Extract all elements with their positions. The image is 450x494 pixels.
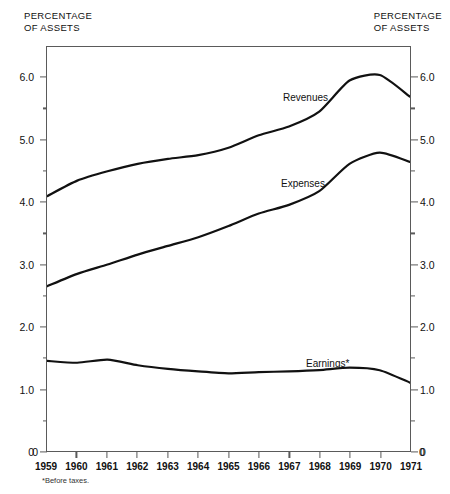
- x-tick-1967: [289, 452, 290, 458]
- y-minor-tick-right-3.5: [411, 233, 415, 234]
- y-axis-label-left-6.0: 6.0: [19, 71, 34, 83]
- series-label-revenues: Revenues: [283, 92, 328, 103]
- plot-area: [46, 46, 411, 452]
- x-axis-label-1970: 1970: [369, 461, 391, 472]
- y-minor-tick-right-4.5: [411, 170, 415, 171]
- x-tick-1960: [76, 452, 77, 458]
- x-tick-1970: [380, 452, 381, 458]
- series-line-earnings: [47, 360, 410, 383]
- x-axis-label-1966: 1966: [248, 461, 270, 472]
- y-tick-right-3.0: [411, 264, 418, 265]
- y-tick-right-4.0: [411, 202, 418, 203]
- y-minor-tick-right-1.5: [411, 358, 415, 359]
- y-minor-tick-right-0.5: [411, 420, 415, 421]
- x-tick-1961: [106, 452, 107, 458]
- series-line-revenues: [47, 74, 410, 196]
- line-chart-svg: [47, 47, 410, 451]
- x-axis-label-1963: 1963: [157, 461, 179, 472]
- y-axis-label-right-6.0: 6.0: [420, 71, 435, 83]
- series-label-expenses: Expenses: [281, 178, 325, 189]
- y-minor-tick-right-2.5: [411, 295, 415, 296]
- x-axis-label-1968: 1968: [309, 461, 331, 472]
- y-axis-label-right-3.0: 3.0: [420, 259, 435, 271]
- right-axis-title: PERCENTAGE OF ASSETS: [374, 10, 442, 33]
- footnote: *Before taxes.: [42, 476, 89, 485]
- x-tick-1963: [167, 452, 168, 458]
- y-tick-right-0: [411, 451, 418, 452]
- y-axis-label-left-1.0: 1.0: [19, 384, 34, 396]
- x-axis-label-1959: 1959: [35, 461, 57, 472]
- x-axis-label-1962: 1962: [126, 461, 148, 472]
- y-axis-zero-right: 0: [419, 446, 450, 458]
- y-axis-zero-left: 0: [0, 446, 38, 458]
- y-axis-label-right-4.0: 4.0: [420, 196, 435, 208]
- x-tick-1968: [319, 452, 320, 458]
- y-axis-label-left-3.0: 3.0: [19, 259, 34, 271]
- y-axis-label-left-2.0: 2.0: [19, 321, 34, 333]
- x-axis-label-1960: 1960: [65, 461, 87, 472]
- x-axis-label-1969: 1969: [339, 461, 361, 472]
- y-minor-tick-right-5.5: [411, 108, 415, 109]
- y-tick-right-6.0: [411, 77, 418, 78]
- y-axis-label-right-2.0: 2.0: [420, 321, 435, 333]
- y-tick-right-1.0: [411, 389, 418, 390]
- y-axis-label-right-5.0: 5.0: [420, 134, 435, 146]
- x-axis-label-1971: 1971: [400, 461, 422, 472]
- y-axis-label-left-4.0: 4.0: [19, 196, 34, 208]
- x-axis-label-1965: 1965: [217, 461, 239, 472]
- y-axis-label-right-1.0: 1.0: [420, 384, 435, 396]
- left-axis-title: PERCENTAGE OF ASSETS: [24, 10, 92, 33]
- x-tick-1962: [137, 452, 138, 458]
- x-tick-1964: [197, 452, 198, 458]
- x-tick-1965: [228, 452, 229, 458]
- x-tick-1969: [350, 452, 351, 458]
- x-axis-label-1961: 1961: [96, 461, 118, 472]
- x-axis-label-1967: 1967: [278, 461, 300, 472]
- y-axis-label-left-5.0: 5.0: [19, 134, 34, 146]
- y-tick-right-2.0: [411, 326, 418, 327]
- y-tick-right-5.0: [411, 139, 418, 140]
- series-label-earnings: Earnings*: [306, 358, 349, 369]
- x-axis-label-1964: 1964: [187, 461, 209, 472]
- x-tick-1966: [258, 452, 259, 458]
